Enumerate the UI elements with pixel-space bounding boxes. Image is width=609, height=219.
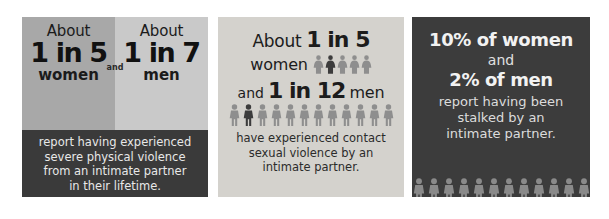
panel-3-male-figure-icon [442, 177, 456, 197]
ratio-women: 1 in 5 [22, 39, 115, 66]
panel-3-male-figure-icon [517, 177, 531, 197]
panel-3-male-figure-icon [502, 177, 516, 197]
caption-physical-violence-line-3: from an intimate partner [22, 164, 208, 179]
stat-men-stalking: 2% of men [412, 69, 590, 91]
panel-3-male-figure-icon [412, 177, 426, 197]
panel-3-male-figure-icon [562, 177, 576, 197]
panel-3-male-figure-icon [427, 177, 441, 197]
panel-3-male-figure-icon [457, 177, 471, 197]
group-label-men: men [115, 67, 208, 84]
panel-2-men-male-figure-icon [354, 104, 367, 126]
group-label-men-panel-2: men [349, 83, 384, 102]
caption-sexual-violence-line-1: have experienced contact [218, 131, 404, 146]
panel-2-men-male-figure-icon [284, 104, 297, 126]
stat-women-stalking: 10% of women [412, 17, 590, 51]
group-label-women-panel-2: women [250, 55, 307, 74]
panel-2-men-male-figure-icon [382, 104, 395, 126]
caption-sexual-violence: have experienced contactsexual violence … [218, 131, 404, 175]
pictogram-row-women-panel-2 [313, 55, 372, 74]
ratio-women-panel-2: 1 in 5 [306, 27, 369, 52]
panel-2-headline-women: About 1 in 5 [218, 27, 404, 52]
connector-and-panel-3: and [412, 51, 590, 69]
panel-2-women-female-figure-icon [349, 55, 360, 74]
panel-3-male-figure-icon [487, 177, 501, 197]
connector-and-panel-1: and [107, 63, 124, 72]
panel-3-male-figure-icon [547, 177, 561, 197]
group-label-women: women [22, 67, 115, 84]
about-label-panel-2: About [253, 31, 302, 51]
panel-2-headline-men: and 1 in 12 men [218, 78, 404, 103]
ratio-men: 1 in 7 [115, 39, 208, 66]
caption-stalking: report having beenstalked by anintimate … [412, 94, 590, 142]
caption-stalking-line-2: stalked by an [412, 110, 590, 126]
caption-physical-violence-line-1: report having experienced [22, 135, 208, 150]
panel-3-male-figure-icon [472, 177, 486, 197]
ratio-men-panel-2: 1 in 12 [268, 78, 345, 103]
caption-physical-violence-line-2: severe physical violence [22, 150, 208, 165]
caption-sexual-violence-line-3: intimate partner. [218, 160, 404, 175]
panel-2-men-male-figure-icon [340, 104, 353, 126]
panel-2-men-male-figure-icon [228, 104, 241, 126]
panel-3-male-figure-icon [532, 177, 546, 197]
caption-physical-violence-line-4: in their lifetime. [22, 179, 208, 194]
panel-2-men-male-figure-icon [368, 104, 381, 126]
connector-and-panel-2: and [238, 85, 264, 101]
panel-2-women-female-figure-icon [337, 55, 348, 74]
panel-stalking: 10% of women and 2% of men report having… [412, 17, 590, 197]
panel-2-men-male-figure-icon [326, 104, 339, 126]
infographic-root: About 1 in 5 women About 1 in 7 men and … [0, 0, 609, 219]
panel-2-women-row: women [218, 55, 404, 74]
panel-2-men-male-figure-icon [256, 104, 269, 126]
panel-3-male-figure-icon [577, 177, 591, 197]
panel-2-women-female-figure-icon [325, 55, 336, 74]
caption-physical-violence: report having experiencedsevere physical… [22, 130, 208, 197]
panel-2-men-male-figure-icon [242, 104, 255, 126]
caption-sexual-violence-line-2: sexual violence by an [218, 146, 404, 161]
panel-2-men-male-figure-icon [298, 104, 311, 126]
pictogram-row-men-panel-2 [218, 104, 404, 126]
panel-2-women-female-figure-icon [361, 55, 372, 74]
panel-2-men-male-figure-icon [270, 104, 283, 126]
panel-physical-violence: About 1 in 5 women About 1 in 7 men and … [22, 17, 208, 197]
panel-2-women-female-figure-icon [313, 55, 324, 74]
pictogram-row-stalking [412, 177, 590, 197]
panel-2-men-male-figure-icon [312, 104, 325, 126]
caption-stalking-line-3: intimate partner. [412, 126, 590, 142]
caption-stalking-line-1: report having been [412, 94, 590, 110]
panel-sexual-violence: About 1 in 5 women and 1 in 12 men have … [218, 17, 404, 197]
